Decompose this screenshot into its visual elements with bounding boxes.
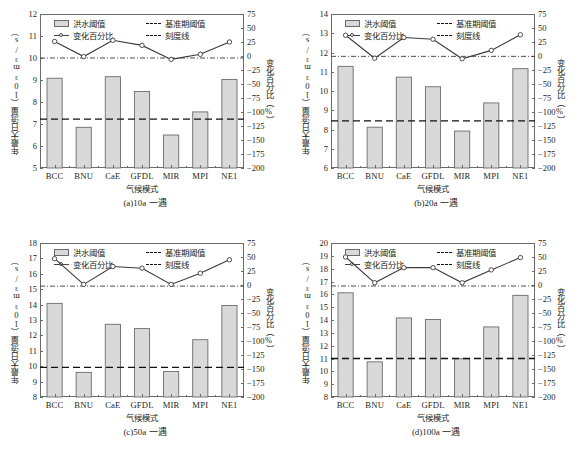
- bar[interactable]: [455, 359, 470, 397]
- y-tick-mark-right: [241, 397, 244, 398]
- bar[interactable]: [396, 318, 411, 397]
- bar[interactable]: [484, 327, 499, 397]
- percent-change-marker[interactable]: [111, 264, 115, 268]
- percent-change-marker[interactable]: [227, 258, 231, 262]
- percent-change-marker[interactable]: [227, 40, 231, 44]
- y-tick-label-left: 16: [29, 270, 38, 279]
- bar[interactable]: [134, 329, 149, 397]
- bar[interactable]: [134, 91, 149, 168]
- figure-sheet: 年最大日流量（10³m³/s） 变化百分比（%） 气候模式 洪水阈值 基准期阈值…: [0, 0, 581, 458]
- x-minor-tick: [98, 395, 99, 397]
- percent-change-marker[interactable]: [489, 268, 493, 272]
- x-tick-mark: [433, 394, 434, 397]
- x-tick-label-mpi: MPI: [192, 171, 208, 181]
- percent-change-marker[interactable]: [169, 57, 173, 61]
- bar[interactable]: [396, 77, 411, 168]
- x-tick-mark: [346, 165, 347, 168]
- x-tick-label-mir: MIR: [454, 400, 471, 410]
- x-tick-mark: [113, 394, 114, 397]
- y-tick-label-right: −175: [538, 150, 556, 159]
- percent-change-marker[interactable]: [460, 281, 464, 285]
- y-axis-title-left-d: 年最大日流量（10³m³/s）: [302, 257, 314, 384]
- y-tick-label-left: 20: [320, 239, 329, 248]
- percent-change-marker[interactable]: [373, 56, 377, 60]
- x-axis-title-d: 气候模式: [417, 411, 449, 423]
- x-tick-mark: [346, 394, 347, 397]
- y-tick-label-left: 15: [29, 285, 38, 294]
- bar[interactable]: [164, 135, 179, 168]
- x-tick-mark: [55, 165, 56, 168]
- percent-change-marker[interactable]: [343, 33, 347, 37]
- bar[interactable]: [222, 306, 237, 397]
- y-tick-label-right: −75: [247, 94, 260, 103]
- percent-change-marker[interactable]: [518, 255, 522, 259]
- y-tick-label-right: 25: [538, 38, 547, 47]
- x-minor-tick: [215, 395, 216, 397]
- y-tick-label-left: 9: [33, 377, 37, 386]
- x-minor-tick: [389, 166, 390, 168]
- bar[interactable]: [367, 127, 382, 168]
- percent-change-marker[interactable]: [52, 39, 56, 43]
- bar[interactable]: [338, 66, 353, 168]
- percent-change-marker[interactable]: [52, 256, 56, 260]
- x-tick-mark: [404, 394, 405, 397]
- percent-change-marker[interactable]: [140, 266, 144, 270]
- chart-panel-b: 年最大日流量（10³m³/s） 变化百分比（%） 气候模式 洪水阈值 基准期阈值…: [291, 0, 581, 229]
- y-tick-label-right: −100: [247, 337, 265, 346]
- bar[interactable]: [425, 87, 440, 168]
- bar[interactable]: [193, 112, 208, 168]
- bar[interactable]: [76, 127, 91, 168]
- x-tick-mark: [229, 394, 230, 397]
- bar[interactable]: [513, 69, 528, 168]
- percent-change-marker[interactable]: [431, 37, 435, 41]
- y-tick-label-left: 17: [29, 254, 38, 263]
- percent-change-marker[interactable]: [111, 38, 115, 42]
- percent-change-marker[interactable]: [431, 265, 435, 269]
- percent-change-marker[interactable]: [140, 43, 144, 47]
- bar[interactable]: [513, 295, 528, 397]
- x-tick-label-mpi: MPI: [192, 400, 208, 410]
- bar[interactable]: [193, 340, 208, 397]
- y-tick-label-right: −50: [247, 80, 260, 89]
- x-tick-label-gfdl: GFDL: [130, 400, 153, 410]
- bar[interactable]: [455, 131, 470, 168]
- y-tick-label-left: 12: [320, 48, 329, 57]
- y-tick-label-left: 14: [320, 10, 329, 19]
- percent-change-marker[interactable]: [518, 33, 522, 37]
- percent-change-marker[interactable]: [198, 52, 202, 56]
- bar[interactable]: [47, 78, 62, 168]
- percent-change-marker[interactable]: [460, 57, 464, 61]
- bar[interactable]: [105, 77, 120, 168]
- y-tick-label-left: 11: [29, 32, 37, 41]
- percent-change-marker[interactable]: [402, 265, 406, 269]
- y-tick-mark-left: [40, 168, 43, 169]
- bar[interactable]: [367, 362, 382, 397]
- x-tick-label-bnu: BNU: [365, 171, 384, 181]
- percent-change-marker[interactable]: [82, 54, 86, 58]
- x-tick-mark: [520, 394, 521, 397]
- y-tick-label-left: 11: [320, 68, 328, 77]
- bar[interactable]: [222, 80, 237, 168]
- y-tick-label-left: 18: [320, 264, 329, 273]
- y-tick-label-left: 12: [29, 10, 38, 19]
- percent-change-marker[interactable]: [82, 282, 86, 286]
- x-tick-label-gfdl: GFDL: [130, 171, 153, 181]
- bar[interactable]: [47, 303, 62, 397]
- bar[interactable]: [105, 324, 120, 397]
- percent-change-marker[interactable]: [198, 271, 202, 275]
- y-tick-mark-left: [331, 397, 334, 398]
- bar[interactable]: [484, 103, 499, 168]
- y-tick-label-right: 0: [538, 281, 542, 290]
- percent-change-marker[interactable]: [373, 281, 377, 285]
- percent-change-marker[interactable]: [169, 282, 173, 286]
- x-tick-label-bnu: BNU: [365, 400, 384, 410]
- percent-change-line: [55, 259, 230, 285]
- percent-change-marker[interactable]: [343, 255, 347, 259]
- y-tick-label-left: 15: [320, 303, 329, 312]
- percent-change-marker[interactable]: [402, 35, 406, 39]
- bar[interactable]: [338, 293, 353, 397]
- x-tick-label-mir: MIR: [163, 400, 180, 410]
- plot-area-a: 年最大日流量（10³m³/s） 变化百分比（%） 气候模式 洪水阈值 基准期阈值…: [40, 14, 244, 168]
- x-tick-label-bcc: BCC: [46, 171, 64, 181]
- percent-change-marker[interactable]: [489, 48, 493, 52]
